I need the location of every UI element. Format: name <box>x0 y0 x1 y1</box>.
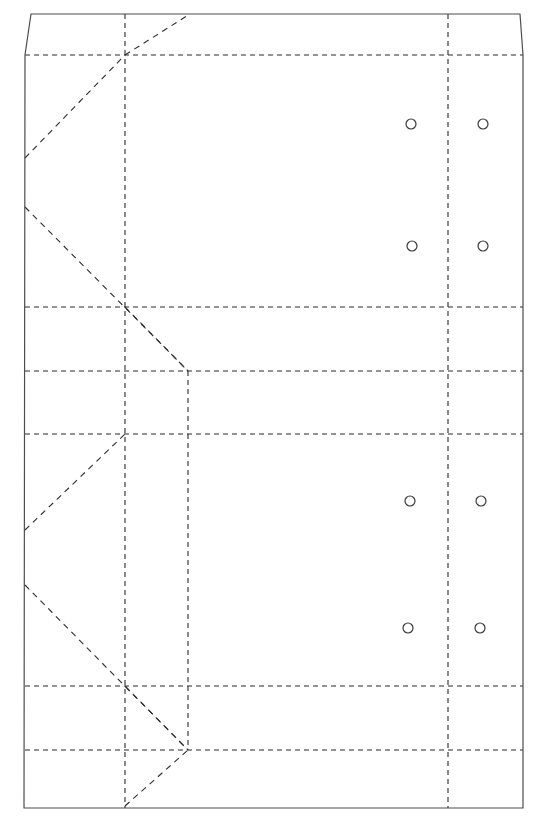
fold-diagonal-2 <box>125 14 190 55</box>
hole-top-left-b <box>407 241 417 251</box>
hole-top-right-b <box>478 241 488 251</box>
hole-bottom-left-a <box>405 496 415 506</box>
fold-diagonal-4 <box>125 307 188 371</box>
fold-diagonal-7 <box>125 686 188 750</box>
hole-top-right-a <box>478 119 488 129</box>
hole-bottom-right-b <box>475 623 485 633</box>
hole-bottom-right-a <box>476 496 486 506</box>
crease-lines-vertical <box>125 14 448 808</box>
fold-diagonal-8 <box>125 750 188 806</box>
dieline-drawing <box>0 0 544 821</box>
dieline-canvas <box>0 0 544 821</box>
hole-top-left-a <box>406 119 416 129</box>
fold-diagonals <box>25 14 190 806</box>
hole-bottom-left-b <box>403 623 413 633</box>
fold-diagonal-5 <box>25 434 125 530</box>
punch-holes <box>403 119 488 633</box>
fold-diagonal-1 <box>25 55 125 158</box>
